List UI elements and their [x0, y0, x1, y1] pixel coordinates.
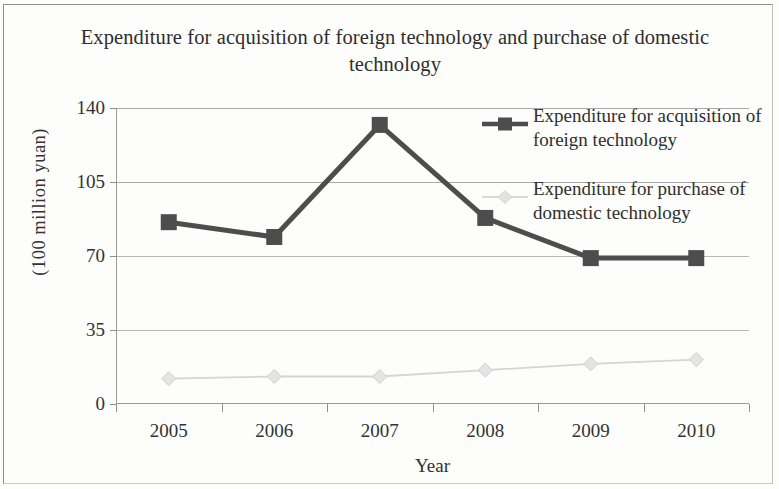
x-axis-tick: [644, 404, 645, 412]
y-axis-title-label: (100 million yuan): [29, 128, 49, 276]
legend-label-foreign: Expenditure for acquisition of foreign t…: [533, 104, 771, 152]
data-series-layer: [116, 108, 749, 404]
data-point-marker-diamond: [162, 372, 176, 386]
legend-label-domestic: Expenditure for purchase of domestic tec…: [533, 177, 771, 225]
x-axis-tick-label: 2005: [150, 420, 188, 442]
data-point-marker-square: [688, 250, 704, 266]
chart-screenshot: Expenditure for acquisition of foreign t…: [0, 0, 779, 489]
data-point-marker-square: [266, 229, 282, 245]
y-axis-title: (100 million yuan): [30, 128, 49, 276]
data-point-marker-square: [161, 214, 177, 230]
x-axis-tick-label: 2008: [466, 420, 504, 442]
y-axis-tick-label: 0: [96, 393, 106, 415]
data-point-marker-diamond: [373, 370, 387, 384]
x-axis-tick-label: 2006: [255, 420, 293, 442]
x-axis-tick-label: 2009: [572, 420, 610, 442]
data-point-marker-diamond: [584, 357, 598, 371]
x-axis-tick: [327, 404, 328, 412]
data-point-marker-diamond: [478, 363, 492, 377]
chart-title: Expenditure for acquisition of foreign t…: [50, 24, 740, 77]
data-point-marker-square: [583, 250, 599, 266]
series-line: [169, 360, 697, 379]
plot-area: 03570105140 200520062007200820092010 Yea…: [116, 108, 749, 404]
y-axis-tick-label: 140: [77, 97, 106, 119]
x-axis-tick-label: 2010: [677, 420, 715, 442]
y-axis-tick-label: 35: [86, 319, 105, 341]
x-axis-title: Year: [116, 455, 749, 477]
y-axis-tick-label: 70: [86, 245, 105, 267]
x-axis-tick: [749, 404, 750, 412]
data-point-marker-diamond: [267, 370, 281, 384]
legend-marker-square-icon: [481, 117, 529, 131]
legend-marker-diamond-icon: [481, 190, 529, 204]
x-axis-tick: [433, 404, 434, 412]
data-point-marker-square: [372, 117, 388, 133]
series-domestic: [162, 353, 704, 386]
x-axis-tick: [538, 404, 539, 412]
y-axis-tick-label: 105: [77, 171, 106, 193]
x-axis-tick-label: 2007: [361, 420, 399, 442]
data-point-marker-diamond: [689, 353, 703, 367]
data-point-marker-square: [477, 210, 493, 226]
x-axis-tick: [116, 404, 117, 412]
x-axis-tick: [222, 404, 223, 412]
